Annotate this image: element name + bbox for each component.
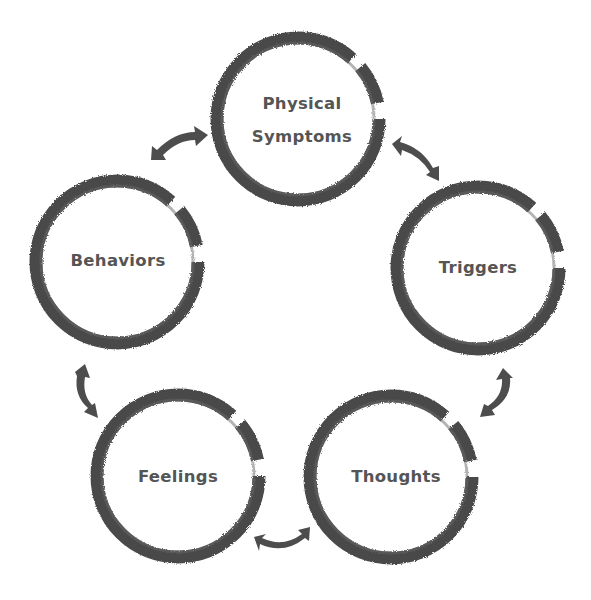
double-arrow-icon xyxy=(75,364,98,418)
brush-ring xyxy=(217,38,379,200)
node-physical-symptoms: Physical Symptoms xyxy=(217,38,379,200)
node-thoughts: Thoughts xyxy=(310,396,472,558)
node-label: Triggers xyxy=(439,258,517,277)
node-behaviors: Behaviors xyxy=(36,181,198,343)
node-feelings: Feelings xyxy=(97,395,259,557)
brush-ring-inner xyxy=(222,43,374,195)
node-label-line1: Physical xyxy=(262,94,341,113)
node-triggers: Triggers xyxy=(397,187,559,349)
double-arrow-icon xyxy=(392,136,439,181)
double-arrow-icon xyxy=(151,126,208,160)
node-label: Behaviors xyxy=(70,251,165,270)
node-label: Feelings xyxy=(138,467,218,486)
double-arrow-icon xyxy=(480,368,513,417)
cycle-diagram: Physical Symptoms Triggers Thoughts Feel… xyxy=(0,0,591,600)
double-arrow-icon xyxy=(254,527,310,551)
node-label-line2: Symptoms xyxy=(252,127,352,146)
node-label: Thoughts xyxy=(351,467,441,486)
